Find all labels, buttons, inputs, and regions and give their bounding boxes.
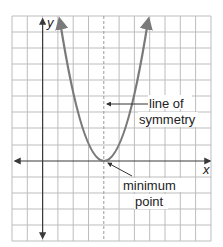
minimum-label-line1: minimum <box>123 178 176 193</box>
minimum-label-line2: point <box>135 194 164 209</box>
curve-arrow-left <box>60 19 62 26</box>
symmetry-label-line2: symmetry <box>139 112 196 127</box>
y-axis-label: y <box>46 15 55 30</box>
parabola-graph: line of symmetry minimum point x y <box>0 0 223 247</box>
curve-arrow-right <box>147 19 149 26</box>
symmetry-label-line1: line of <box>149 96 184 111</box>
x-axis-label: x <box>202 162 210 177</box>
grid <box>12 16 211 241</box>
minimum-pointer-arrow <box>108 163 132 176</box>
